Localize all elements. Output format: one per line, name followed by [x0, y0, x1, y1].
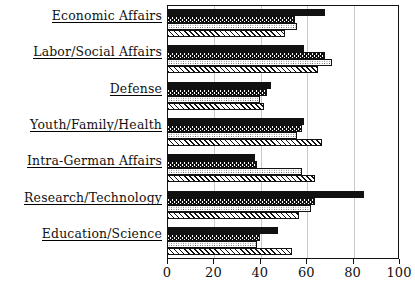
category-label: Defense: [110, 82, 162, 96]
category-label: Economic Affairs: [52, 9, 162, 23]
bar: [167, 16, 295, 23]
x-tick-label: 60: [298, 265, 315, 280]
x-tick: [260, 259, 261, 264]
bar: [167, 132, 297, 139]
bar: [167, 191, 364, 198]
x-tick-label: 80: [344, 265, 361, 280]
bar: [167, 59, 332, 66]
x-axis: 020406080100: [167, 259, 399, 289]
bar: [167, 212, 299, 219]
x-tick-label: 100: [387, 265, 412, 280]
bar: [167, 227, 278, 234]
bar: [167, 9, 325, 16]
bar: [167, 23, 297, 30]
x-tick-label: 40: [252, 265, 269, 280]
x-tick: [213, 259, 214, 264]
bar: [167, 198, 315, 205]
x-tick-label: 0: [163, 265, 171, 280]
category-axis-labels: Economic AffairsLabor/Social AffairsDefe…: [0, 0, 167, 256]
bar: [167, 66, 318, 73]
bar: [167, 154, 255, 161]
bar: [167, 125, 302, 132]
bar: [167, 205, 311, 212]
bar: [167, 96, 260, 103]
bar: [167, 241, 257, 248]
bar: [167, 168, 302, 175]
bar: [167, 82, 271, 89]
bar: [167, 161, 257, 168]
bar: [167, 248, 292, 255]
category-label: Intra-German Affairs: [27, 154, 162, 168]
chart-container: Economic AffairsLabor/Social AffairsDefe…: [0, 0, 415, 292]
bar: [167, 139, 322, 146]
x-tick: [167, 259, 168, 264]
bar: [167, 118, 304, 125]
bar: [167, 175, 315, 182]
category-label: Youth/Family/Health: [30, 118, 162, 132]
bar: [167, 234, 260, 241]
bar: [167, 30, 285, 37]
bar: [167, 89, 267, 96]
x-tick: [399, 259, 400, 264]
bar: [167, 45, 304, 52]
category-label: Labor/Social Affairs: [33, 45, 162, 59]
category-label: Education/Science: [42, 227, 162, 241]
bars-layer: [167, 5, 399, 259]
x-tick-label: 20: [205, 265, 222, 280]
x-tick: [306, 259, 307, 264]
bar: [167, 103, 264, 110]
x-tick: [353, 259, 354, 264]
category-label: Research/Technology: [24, 191, 162, 205]
bar: [167, 52, 325, 59]
